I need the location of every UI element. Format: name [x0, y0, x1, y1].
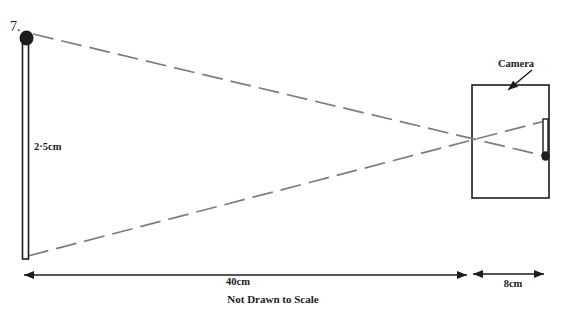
object-matchstick — [23, 42, 29, 259]
camera-box — [472, 85, 549, 198]
scale-note: Not Drawn to Scale — [227, 293, 318, 305]
light-ray-top-dashed — [33, 34, 545, 156]
diagram-canvas: 7. 2·5cm Camera 40cm 8cm Not Drawn to Sc… — [0, 0, 563, 317]
question-number: 7. — [10, 19, 21, 34]
image-matchstick-inverted — [543, 119, 548, 155]
object-distance-label: 40cm — [226, 276, 250, 287]
light-ray-bottom-dashed — [28, 121, 545, 256]
object-height-label: 2·5cm — [34, 141, 62, 152]
object-match-head — [20, 31, 34, 46]
image-distance-label: 8cm — [504, 278, 523, 289]
pinhole-camera-diagram: 7. 2·5cm Camera 40cm 8cm Not Drawn to Sc… — [0, 0, 563, 317]
image-match-head — [541, 151, 549, 161]
camera-label: Camera — [498, 58, 535, 69]
